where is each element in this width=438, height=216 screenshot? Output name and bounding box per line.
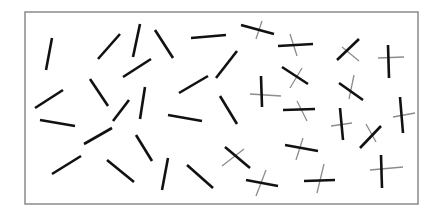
plain-bar	[133, 24, 140, 57]
crossed-item	[393, 97, 415, 133]
crossed-bar	[381, 155, 382, 188]
crossed-bar	[337, 39, 359, 60]
crossed-bar	[282, 67, 308, 84]
crossed-item	[285, 138, 318, 160]
plain-bar	[84, 128, 112, 144]
grey-cross-line	[317, 164, 324, 193]
plain-bar	[191, 35, 226, 38]
plain-bar	[98, 34, 120, 59]
grey-cross-line	[297, 101, 307, 121]
plain-bars-group	[35, 24, 237, 190]
crossed-item	[360, 124, 381, 148]
plain-bar	[155, 30, 173, 58]
plain-bar	[140, 87, 145, 119]
plain-bar	[168, 115, 202, 121]
line-segment-field	[0, 0, 438, 216]
plain-bar	[220, 96, 237, 124]
plain-bar	[35, 90, 63, 108]
crossed-bar	[285, 145, 318, 151]
crossed-item	[283, 101, 315, 121]
crossed-item	[250, 76, 281, 107]
crossed-item	[246, 170, 278, 196]
grey-cross-line	[393, 113, 415, 117]
crossed-bar	[339, 83, 363, 100]
crossed-bar	[278, 44, 313, 46]
crossed-item	[337, 39, 359, 61]
stimulus-frame	[25, 12, 418, 204]
plain-bar	[187, 165, 213, 188]
crossed-bar	[283, 109, 315, 110]
crossed-item	[339, 75, 363, 100]
crossed-item	[282, 67, 308, 88]
plain-bar	[40, 120, 75, 126]
crossed-bar	[261, 76, 262, 107]
crossed-items-group	[222, 21, 415, 196]
plain-bar	[52, 156, 81, 174]
crossed-item	[378, 45, 404, 78]
plain-bar	[46, 38, 52, 70]
plain-bar	[179, 76, 208, 93]
plain-bar	[107, 160, 134, 182]
grey-cross-line	[222, 149, 244, 166]
crossed-bar	[304, 180, 335, 181]
crossed-item	[278, 34, 313, 56]
plain-bar	[216, 51, 237, 78]
plain-bar	[162, 158, 168, 190]
plain-bar	[90, 79, 108, 106]
grey-cross-line	[349, 75, 354, 99]
plain-bar	[123, 59, 151, 77]
crossed-bar	[225, 147, 250, 168]
crossed-bar	[400, 97, 403, 133]
grey-cross-line	[370, 167, 403, 170]
crossed-item	[304, 164, 335, 193]
grey-cross-line	[378, 57, 404, 58]
crossed-bar	[340, 108, 343, 140]
plain-bar	[136, 135, 152, 161]
crossed-item	[331, 108, 352, 140]
crossed-item	[241, 21, 274, 39]
crossed-bar	[360, 126, 381, 148]
crossed-item	[370, 155, 403, 188]
crossed-bar	[388, 45, 389, 78]
crossed-item	[222, 147, 250, 168]
grey-cross-line	[250, 94, 281, 96]
plain-bar	[113, 100, 129, 121]
stimulus-canvas	[0, 0, 438, 216]
